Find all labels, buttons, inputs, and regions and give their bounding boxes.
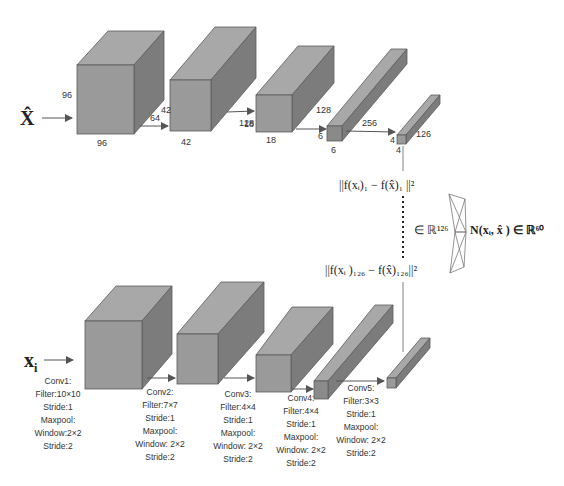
svg-text:Maxpool:: Maxpool: <box>344 422 379 432</box>
svg-text:Maxpool:: Maxpool: <box>41 415 76 425</box>
svg-text:Window: 2×2: Window: 2×2 <box>336 435 386 445</box>
bottom-branch: xi <box>24 282 430 468</box>
input-x-hat-label: X̂ <box>20 106 35 129</box>
svg-text:Window: 2×2: Window: 2×2 <box>213 441 263 451</box>
top-branch: X̂ 96 96 64 42 42 128 18 18 <box>20 27 440 155</box>
dim-height: 42 <box>161 105 171 115</box>
diff-first-feature: ||f(xᵢ)₁ − f(x̂)₁ ||² <box>339 178 415 192</box>
svg-text:Filter:10×10: Filter:10×10 <box>35 389 80 399</box>
dim-width: 6 <box>331 145 336 155</box>
svg-text:Window: 2×2: Window: 2×2 <box>276 445 326 455</box>
layer-caption-conv4: Conv4: Filter:4×4 Stride:1 Maxpool: Wind… <box>276 393 326 468</box>
dim-depth: 256 <box>362 118 377 128</box>
svg-text:Maxpool:: Maxpool: <box>143 426 178 436</box>
svg-text:Stride:1: Stride:1 <box>43 402 73 412</box>
dim-width: 4 <box>396 145 401 155</box>
input-xi-label: xi <box>24 349 38 375</box>
flow-arrow <box>346 131 395 132</box>
bottom-block-1 <box>85 286 172 389</box>
bottom-block-5 <box>387 338 430 388</box>
svg-text:Filter:4×4: Filter:4×4 <box>283 406 319 416</box>
siamese-cnn-diagram: X̂ 96 96 64 42 42 128 18 18 <box>0 0 564 486</box>
top-block-1: 96 96 64 <box>62 31 164 148</box>
top-block-5: 4 4 126 <box>390 95 440 155</box>
layer-caption-conv3: Conv3: Filter:4×4 Stride:1 Maxpool: Wind… <box>213 389 263 464</box>
dim-height: 18 <box>244 119 254 129</box>
svg-text:Stride:1: Stride:1 <box>286 419 316 429</box>
fc-network-icon <box>449 194 466 273</box>
svg-text:Filter:7×7: Filter:7×7 <box>142 400 178 410</box>
diff-last-feature: ||f(xᵢ )₁₂₆ − f(x̂)₁₂₆||² <box>325 263 417 277</box>
dim-depth: 64 <box>150 113 160 123</box>
dim-depth: 128 <box>316 105 331 115</box>
layer-caption-conv1: Conv1: Filter:10×10 Stride:1 Maxpool: Wi… <box>34 376 81 451</box>
network-output-label: N(xᵢ, x̂ ) ∈ ℝ⁶⁰ <box>470 223 544 237</box>
svg-text:Conv3:: Conv3: <box>225 389 252 399</box>
svg-text:Stride:2: Stride:2 <box>346 448 376 458</box>
svg-text:Conv4:: Conv4: <box>288 393 315 403</box>
svg-text:Filter:4×4: Filter:4×4 <box>220 402 256 412</box>
top-block-2: 42 42 128 <box>161 27 256 147</box>
layer-caption-conv5: Conv5: Filter:3×3 Stride:1 Maxpool: Wind… <box>336 383 386 458</box>
svg-text:Conv5:: Conv5: <box>348 383 375 393</box>
svg-text:Filter:3×3: Filter:3×3 <box>343 396 379 406</box>
svg-text:Maxpool:: Maxpool: <box>284 432 319 442</box>
feature-space-label: ∈ ℝ¹²⁶ <box>414 223 448 237</box>
svg-text:Stride:1: Stride:1 <box>223 415 253 425</box>
dim-width: 96 <box>97 138 107 148</box>
svg-text:Window: 2×2: Window: 2×2 <box>135 439 185 449</box>
svg-text:Stride:1: Stride:1 <box>145 413 175 423</box>
layer-caption-conv2: Conv2: Filter:7×7 Stride:1 Maxpool: Wind… <box>135 387 185 462</box>
dim-depth: 126 <box>416 129 431 139</box>
flow-arrow <box>227 111 254 112</box>
svg-text:Stride:2: Stride:2 <box>223 454 253 464</box>
dim-height: 96 <box>62 90 72 100</box>
svg-text:Conv2:: Conv2: <box>147 387 174 397</box>
dim-width: 42 <box>181 137 191 147</box>
svg-text:Stride:2: Stride:2 <box>43 441 73 451</box>
svg-text:Stride:1: Stride:1 <box>346 409 376 419</box>
svg-text:Maxpool:: Maxpool: <box>221 428 256 438</box>
dim-height: 4 <box>390 135 395 145</box>
svg-text:Stride:2: Stride:2 <box>145 452 175 462</box>
svg-text:Window:2×2: Window:2×2 <box>34 428 81 438</box>
svg-text:Stride:2: Stride:2 <box>286 458 316 468</box>
dim-width: 18 <box>266 135 276 145</box>
dim-height: 6 <box>318 131 323 141</box>
svg-text:Conv1:: Conv1: <box>45 376 72 386</box>
bottom-block-2 <box>177 282 264 384</box>
